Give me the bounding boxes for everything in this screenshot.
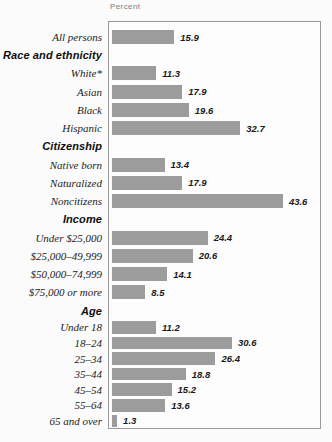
category-label: 35–44 bbox=[0, 368, 108, 380]
bar-row: All persons15.9 bbox=[0, 28, 323, 46]
category-label: 55–64 bbox=[0, 399, 108, 411]
bar bbox=[112, 66, 156, 80]
value-label: 24.4 bbox=[214, 232, 233, 243]
bar-cell: 8.5 bbox=[108, 285, 323, 299]
value-label: 15.9 bbox=[180, 32, 199, 43]
bar-row: 65 and over1.3 bbox=[0, 413, 323, 429]
bar-cell: 13.6 bbox=[108, 399, 323, 412]
bar bbox=[112, 194, 283, 208]
value-label: 18.8 bbox=[192, 369, 211, 380]
section-header: Citizenship bbox=[0, 140, 108, 152]
value-label: 32.7 bbox=[246, 123, 265, 134]
bar bbox=[112, 383, 172, 396]
value-label: 11.2 bbox=[162, 322, 180, 333]
value-label: 30.6 bbox=[238, 337, 257, 348]
bar-row: Hispanic32.7 bbox=[0, 119, 323, 137]
chart-rows: All persons15.9Race and ethnicityWhite*1… bbox=[0, 21, 323, 429]
value-label: 8.5 bbox=[151, 287, 164, 298]
bar bbox=[112, 85, 182, 99]
bar bbox=[112, 176, 182, 190]
bar-cell: 19.6 bbox=[108, 103, 323, 117]
bar bbox=[112, 30, 174, 44]
bar bbox=[112, 321, 156, 334]
bar-row: Under 1811.2 bbox=[0, 320, 323, 336]
category-label: Black bbox=[0, 104, 108, 116]
value-label: 11.3 bbox=[162, 68, 180, 79]
section-header: Race and ethnicity bbox=[0, 49, 108, 61]
category-label: White* bbox=[0, 67, 108, 79]
bar-row: $25,000–49,99920.6 bbox=[0, 247, 323, 265]
value-label: 14.1 bbox=[173, 269, 192, 280]
category-label: Asian bbox=[0, 86, 108, 98]
section-header-row: Age bbox=[0, 302, 323, 320]
bar-cell: 14.1 bbox=[108, 267, 323, 281]
category-label: 65 and over bbox=[0, 415, 108, 427]
bar bbox=[112, 415, 117, 428]
section-header-row: Citizenship bbox=[0, 137, 323, 155]
bar bbox=[112, 103, 189, 117]
bar-row: 35–4418.8 bbox=[0, 366, 323, 382]
bar-row: Naturalized17.9 bbox=[0, 174, 323, 192]
value-label: 13.6 bbox=[171, 400, 190, 411]
bar-cell: 20.6 bbox=[108, 249, 323, 263]
bar bbox=[112, 368, 186, 381]
bar-cell: 26.4 bbox=[108, 352, 323, 365]
bar-cell: 32.7 bbox=[108, 121, 323, 135]
bar-cell: 11.2 bbox=[108, 321, 323, 334]
bar-row: Native born13.4 bbox=[0, 155, 323, 173]
bar-row: White*11.3 bbox=[0, 64, 323, 82]
bar-cell: 17.9 bbox=[108, 85, 323, 99]
category-label: Noncitizens bbox=[0, 195, 108, 207]
category-label: 45–54 bbox=[0, 384, 108, 396]
bar-row: Black19.6 bbox=[0, 101, 323, 119]
bar bbox=[112, 352, 215, 365]
bar-cell: 11.3 bbox=[108, 66, 323, 80]
category-label: Native born bbox=[0, 159, 108, 171]
bar bbox=[112, 285, 145, 299]
category-label: Under $25,000 bbox=[0, 232, 108, 244]
category-label: Hispanic bbox=[0, 122, 108, 134]
bar-cell: 18.8 bbox=[108, 368, 323, 381]
bar-row: Asian17.9 bbox=[0, 83, 323, 101]
bar bbox=[112, 267, 167, 281]
bar-row: Noncitizens43.6 bbox=[0, 192, 323, 210]
bar-cell: 13.4 bbox=[108, 158, 323, 172]
bar-cell: 30.6 bbox=[108, 337, 323, 350]
category-label: Naturalized bbox=[0, 177, 108, 189]
bar-cell: 15.2 bbox=[108, 383, 323, 396]
category-label: $50,000–74,999 bbox=[0, 268, 108, 280]
axis-title: Percent bbox=[110, 2, 140, 11]
value-label: 15.2 bbox=[178, 384, 197, 395]
category-label: Under 18 bbox=[0, 321, 108, 333]
section-header-row: Race and ethnicity bbox=[0, 46, 323, 64]
value-label: 26.4 bbox=[221, 353, 240, 364]
bar bbox=[112, 399, 165, 412]
bar bbox=[112, 158, 165, 172]
section-header-row: Income bbox=[0, 210, 323, 228]
value-label: 43.6 bbox=[289, 196, 308, 207]
bar bbox=[112, 121, 240, 135]
bar-cell: 15.9 bbox=[108, 30, 323, 44]
value-label: 20.6 bbox=[199, 250, 218, 261]
value-label: 17.9 bbox=[188, 177, 207, 188]
value-label: 17.9 bbox=[188, 86, 207, 97]
category-label: 18–24 bbox=[0, 337, 108, 349]
bar bbox=[112, 337, 232, 350]
bar-row: 18–2430.6 bbox=[0, 335, 323, 351]
category-label: $75,000 or more bbox=[0, 286, 108, 298]
bar bbox=[112, 249, 193, 263]
category-label: $25,000–49,999 bbox=[0, 250, 108, 262]
bar-row: $50,000–74,99914.1 bbox=[0, 265, 323, 283]
bar-row: 45–5415.2 bbox=[0, 382, 323, 398]
bar-cell: 1.3 bbox=[108, 415, 323, 428]
bar-row: $75,000 or more8.5 bbox=[0, 283, 323, 301]
bar-chart-figure: Percent All persons15.9Race and ethnicit… bbox=[0, 0, 332, 442]
value-label: 13.4 bbox=[171, 159, 190, 170]
bar-cell: 17.9 bbox=[108, 176, 323, 190]
section-header: Age bbox=[0, 305, 108, 317]
bar bbox=[112, 231, 208, 245]
bar-row: 55–6413.6 bbox=[0, 398, 323, 414]
category-label: 25–34 bbox=[0, 353, 108, 365]
category-label: All persons bbox=[0, 31, 108, 43]
bar-cell: 43.6 bbox=[108, 194, 323, 208]
